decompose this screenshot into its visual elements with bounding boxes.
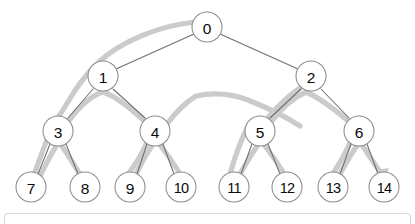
node-10-label: 10: [174, 180, 189, 196]
tree-node-6[interactable]: 6: [344, 116, 374, 146]
tree-node-2[interactable]: 2: [296, 61, 326, 91]
tree-node-8[interactable]: 8: [70, 172, 100, 202]
node-0-label: 0: [203, 20, 212, 37]
binary-tree-svg: 0 1 2 3 4 5: [0, 0, 415, 224]
node-7-label: 7: [27, 180, 35, 197]
tree-diagram-canvas: 0 1 2 3 4 5: [0, 0, 415, 224]
node-14-label: 14: [377, 180, 392, 196]
edge-0-1: [116, 34, 194, 69]
tree-node-0[interactable]: 0: [192, 12, 222, 42]
node-13-label: 13: [326, 180, 341, 196]
tree-node-14[interactable]: 14: [369, 172, 399, 202]
edge-5-12: [268, 144, 280, 174]
tree-node-11[interactable]: 11: [219, 172, 249, 202]
traversal-path-group: [35, 22, 389, 180]
node-5-label: 5: [256, 124, 264, 141]
tree-node-5[interactable]: 5: [245, 116, 275, 146]
bottom-panel-divider: [4, 213, 411, 224]
edge-0-2: [220, 34, 298, 69]
edge-1-4: [113, 89, 145, 118]
node-1-label: 1: [99, 69, 107, 86]
node-2-label: 2: [307, 69, 315, 86]
tree-node-13[interactable]: 13: [318, 172, 348, 202]
tree-node-10[interactable]: 10: [166, 172, 196, 202]
node-3-label: 3: [54, 124, 62, 141]
tree-node-4[interactable]: 4: [140, 116, 170, 146]
tree-node-1[interactable]: 1: [88, 61, 118, 91]
node-11-label: 11: [227, 180, 241, 196]
node-12-label: 12: [280, 180, 295, 196]
tree-node-7[interactable]: 7: [16, 172, 46, 202]
tree-node-3[interactable]: 3: [43, 116, 73, 146]
traversal-segment-3-1-4: [68, 92, 148, 124]
tree-node-9[interactable]: 9: [115, 172, 145, 202]
node-4-label: 4: [151, 124, 160, 141]
edge-2-5: [270, 89, 301, 118]
node-8-label: 8: [81, 180, 89, 197]
node-9-label: 9: [126, 180, 134, 197]
node-6-label: 6: [355, 124, 363, 141]
tree-node-12[interactable]: 12: [272, 172, 302, 202]
